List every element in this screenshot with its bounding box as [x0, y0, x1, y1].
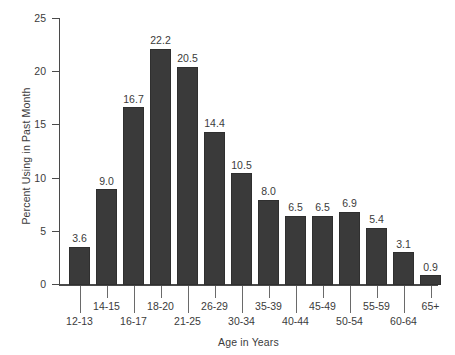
bar-value-label: 6.5 — [315, 202, 330, 213]
bar-group[interactable]: 5.4 — [366, 19, 387, 285]
bar-value-label: 9.0 — [99, 176, 114, 187]
bar-group[interactable]: 14.4 — [204, 19, 225, 285]
bar-group[interactable]: 6.5 — [312, 19, 333, 285]
bar-value-label: 8.0 — [261, 186, 276, 197]
x-axis-tick — [350, 286, 351, 313]
y-axis-tick-label: 15 — [0, 119, 46, 130]
bar-group[interactable]: 9.0 — [96, 19, 117, 285]
bar-group[interactable]: 0.9 — [420, 19, 441, 285]
x-axis-tick-label: 21-25 — [174, 316, 201, 327]
x-axis-tick-label: 14-15 — [93, 301, 120, 312]
x-axis-title: Age in Years — [59, 336, 438, 348]
bar[interactable] — [393, 252, 414, 285]
x-axis-tick-label: 35-39 — [255, 301, 282, 312]
y-axis-tick-label: 20 — [0, 66, 46, 77]
bar[interactable] — [258, 200, 279, 285]
bar-group[interactable]: 22.2 — [150, 19, 171, 285]
x-axis-tick — [188, 286, 189, 313]
bar[interactable] — [285, 216, 306, 285]
bar-value-label: 6.5 — [288, 202, 303, 213]
bar-value-label: 16.7 — [123, 94, 143, 105]
x-axis-tick — [161, 286, 162, 298]
y-axis-tick-label: 25 — [0, 13, 46, 24]
plot-area: 3.69.016.722.220.514.410.58.06.56.56.95.… — [59, 18, 455, 285]
x-axis-tick — [134, 286, 135, 313]
x-axis-tick — [323, 286, 324, 298]
bar[interactable] — [312, 216, 333, 285]
bar-value-label: 3.1 — [396, 239, 411, 250]
bar-value-label: 22.2 — [150, 35, 170, 46]
bar-value-label: 5.4 — [369, 214, 384, 225]
x-axis-tick-label: 55-59 — [363, 301, 390, 312]
bar-group[interactable]: 3.6 — [69, 19, 90, 285]
x-axis-tick-label: 45-49 — [309, 301, 336, 312]
x-axis-tick-label: 65+ — [422, 301, 440, 312]
bar-group[interactable]: 3.1 — [393, 19, 414, 285]
x-axis-tick — [377, 286, 378, 298]
y-axis-tick-label: 10 — [0, 173, 46, 184]
x-axis-tick-label: 12-13 — [66, 316, 93, 327]
bar[interactable] — [231, 173, 252, 285]
bar-group[interactable]: 16.7 — [123, 19, 144, 285]
bar[interactable] — [420, 275, 441, 285]
bar[interactable] — [204, 132, 225, 285]
x-axis-tick-label: 60-64 — [390, 316, 417, 327]
x-axis-tick-label: 16-17 — [120, 316, 147, 327]
x-axis-tick-label: 26-29 — [201, 301, 228, 312]
bar-chart-figure: Percent Using in Past Month 0510152025 3… — [0, 0, 455, 355]
x-axis-tick — [215, 286, 216, 298]
x-axis-tick — [404, 286, 405, 313]
bar[interactable] — [69, 247, 90, 285]
bar-group[interactable]: 6.5 — [285, 19, 306, 285]
bar[interactable] — [123, 107, 144, 285]
y-axis-tick-label: 5 — [0, 226, 46, 237]
bar-value-label: 6.9 — [342, 198, 357, 209]
bar-value-label: 10.5 — [231, 160, 251, 171]
x-axis-tick-label: 40-44 — [282, 316, 309, 327]
bar-value-label: 0.9 — [423, 262, 438, 273]
bar-value-label: 14.4 — [204, 118, 224, 129]
y-axis-tick-label: 0 — [0, 279, 46, 290]
bar[interactable] — [339, 212, 360, 285]
bar[interactable] — [177, 67, 198, 285]
bar-group[interactable]: 20.5 — [177, 19, 198, 285]
bar[interactable] — [96, 189, 117, 285]
bar[interactable] — [150, 49, 171, 285]
x-axis-tick-label: 18-20 — [147, 301, 174, 312]
bar-group[interactable]: 10.5 — [231, 19, 252, 285]
x-axis-tick — [296, 286, 297, 313]
x-axis-tick-label: 30-34 — [228, 316, 255, 327]
x-axis-tick — [80, 286, 81, 313]
x-axis-tick-label: 50-54 — [336, 316, 363, 327]
x-axis-tick — [431, 286, 432, 298]
bar-group[interactable]: 8.0 — [258, 19, 279, 285]
bar-group[interactable]: 6.9 — [339, 19, 360, 285]
x-axis-tick — [269, 286, 270, 298]
bar-value-label: 20.5 — [177, 53, 197, 64]
bar[interactable] — [366, 228, 387, 285]
bar-value-label: 3.6 — [72, 233, 87, 244]
x-axis-tick — [242, 286, 243, 313]
x-axis-tick — [107, 286, 108, 298]
